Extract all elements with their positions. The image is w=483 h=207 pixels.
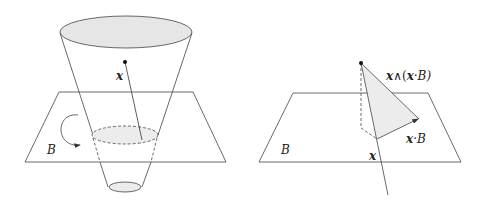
cone-side-right bbox=[158, 33, 192, 135]
label-wedge: x∧(x·B) bbox=[385, 69, 431, 83]
diagram: x B x∧(x·B) x·B B x bbox=[0, 0, 483, 207]
left-figure: x B bbox=[25, 16, 226, 192]
cone-top-ellipse bbox=[60, 16, 192, 48]
label-x-dot-b: x·B bbox=[405, 132, 426, 146]
label-b-right: B bbox=[280, 143, 290, 157]
right-figure: x∧(x·B) x·B B x bbox=[259, 61, 461, 195]
cone-plane-intersection bbox=[92, 126, 158, 144]
cone-bottom-ellipse bbox=[109, 182, 141, 192]
point-x bbox=[123, 60, 127, 64]
label-x: x bbox=[115, 69, 124, 83]
label-x-projection: x bbox=[368, 149, 377, 163]
point-x-right bbox=[359, 61, 363, 65]
diagram-canvas: x B x∧(x·B) x·B B x bbox=[0, 0, 483, 207]
rotation-arrow-icon bbox=[61, 115, 80, 145]
cone-side-left bbox=[60, 33, 93, 135]
label-b-left: B bbox=[46, 143, 56, 157]
